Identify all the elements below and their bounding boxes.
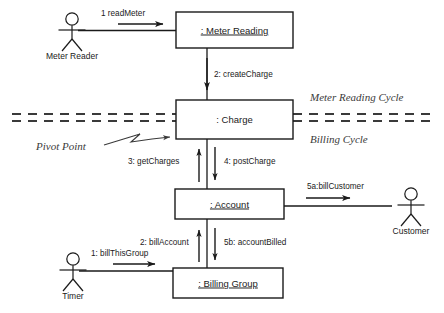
object-label-billing-group: : Billing Group xyxy=(198,278,258,289)
actor-leg-right-icon xyxy=(411,214,421,226)
actor-leg-right-icon xyxy=(73,279,83,291)
message-label-bill-customer: 5a:billCustomer xyxy=(307,182,364,191)
object-label-account: : Account xyxy=(210,199,249,210)
message-label-get-charges: 3: getCharges xyxy=(128,157,179,166)
actor-meter-reader: Meter Reader xyxy=(46,13,98,61)
object-box-billing-group[interactable]: : Billing Group xyxy=(173,268,283,298)
actor-head-icon xyxy=(66,13,78,25)
annotation-meter-reading-cycle: Meter Reading Cycle xyxy=(309,91,404,103)
object-label-charge: : Charge xyxy=(216,114,252,125)
actor-leg-left-icon xyxy=(62,39,72,51)
message-label-account-billed: 5b: accountBilled xyxy=(224,238,287,247)
object-label-meter-reading: : Meter Reading xyxy=(201,25,269,36)
annotation-pivot-point: Pivot Point xyxy=(35,140,87,152)
object-box-account[interactable]: : Account xyxy=(175,189,284,219)
message-label-bill-this-group: 1: billThisGroup xyxy=(91,249,149,258)
uml-collaboration-diagram: Meter Reader 1 readMeter : Meter Reading… xyxy=(0,0,444,313)
actor-head-icon xyxy=(405,188,417,200)
message-label-read-meter: 1 readMeter xyxy=(101,9,145,18)
actor-label-timer: Timer xyxy=(62,291,84,301)
pivot-line-left xyxy=(12,114,176,121)
actor-leg-left-icon xyxy=(63,279,73,291)
annotation-billing-cycle: Billing Cycle xyxy=(310,133,368,145)
diagram-canvas: Meter Reader 1 readMeter : Meter Reading… xyxy=(0,0,444,313)
actor-label-customer: Customer xyxy=(393,226,430,236)
actor-leg-right-icon xyxy=(72,39,82,51)
actor-head-icon xyxy=(67,253,79,265)
message-label-create-charge: 2: createCharge xyxy=(214,70,273,79)
message-label-post-charge: 4: postCharge xyxy=(224,157,276,166)
pivot-point-leader-line xyxy=(104,134,170,145)
object-box-meter-reading[interactable]: : Meter Reading xyxy=(176,12,293,48)
pivot-line-right xyxy=(293,114,437,121)
object-box-charge[interactable]: : Charge xyxy=(176,100,293,139)
actor-customer: Customer xyxy=(393,188,430,236)
actor-leg-left-icon xyxy=(401,214,411,226)
message-label-bill-account: 2: billAccount xyxy=(140,238,189,247)
actor-timer: Timer xyxy=(60,253,87,301)
actor-label-meter-reader: Meter Reader xyxy=(46,51,98,61)
